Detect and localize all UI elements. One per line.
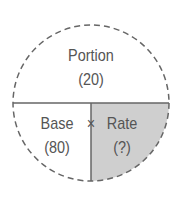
multiply-operator: × [84, 114, 98, 134]
base-value: (80) [36, 138, 79, 158]
portion-value: (20) [60, 70, 121, 90]
rate-value: (?) [102, 138, 141, 158]
rate-label: Rate [102, 114, 141, 134]
portion-label: Portion [60, 46, 121, 66]
base-label: Base [36, 114, 79, 134]
percentage-circle-diagram [0, 0, 180, 199]
